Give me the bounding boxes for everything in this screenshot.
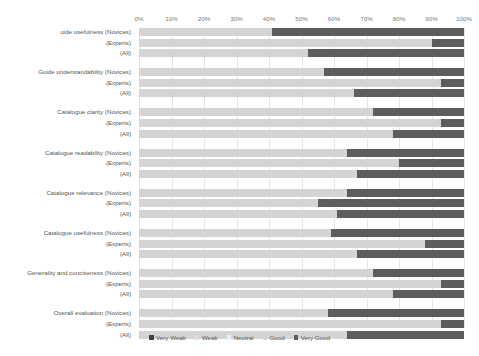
legend-item-good[interactable]: Good <box>263 334 285 341</box>
category-label: Catalogue usefulness (Novices) <box>0 229 134 237</box>
bar-row <box>139 149 464 157</box>
legend-label: Very Good <box>301 334 330 341</box>
legend-item-neutral[interactable]: Neutral <box>227 334 254 341</box>
category-label: Catalogue relevance (Novices) <box>0 189 134 197</box>
bar-row <box>139 49 464 57</box>
bar-segment-very-good <box>354 89 465 97</box>
bar-segment-very-good <box>393 130 465 138</box>
bar-group <box>139 189 464 218</box>
bar-row <box>139 89 464 97</box>
category-label: (All) <box>0 210 134 218</box>
bar-segment-good <box>139 320 441 328</box>
bar-segment-good <box>139 119 441 127</box>
bar-row <box>139 210 464 218</box>
bar-segment-very-good <box>337 210 464 218</box>
category-label: (All) <box>0 130 134 138</box>
bar-row <box>139 199 464 207</box>
legend-label: Very Weak <box>156 334 186 341</box>
bar-segment-good <box>139 68 324 76</box>
label-group: Guide understandability (Novices)(Expert… <box>0 68 134 97</box>
bar-row <box>139 280 464 288</box>
category-label: (Experts) <box>0 79 134 87</box>
category-label: (All) <box>0 250 134 258</box>
legend-swatch-icon <box>149 335 154 340</box>
bar-segment-good <box>139 79 441 87</box>
x-axis-tick-70: 70% <box>360 15 373 22</box>
x-axis-tick-90: 90% <box>425 15 438 22</box>
label-group: Catalogue clarity (Novices)(Experts)(All… <box>0 108 134 137</box>
bar-row <box>139 68 464 76</box>
x-axis-tick-100: 100% <box>456 15 472 22</box>
bar-row <box>139 170 464 178</box>
bar-segment-good <box>139 170 357 178</box>
bar-group <box>139 229 464 258</box>
x-axis-tick-0: 0% <box>134 15 143 22</box>
category-label: (Experts) <box>0 280 134 288</box>
bar-group <box>139 108 464 137</box>
bar-segment-good <box>139 39 432 47</box>
bar-row <box>139 189 464 197</box>
bar-segment-good <box>139 240 425 248</box>
category-label: Catalogue readability (Novices) <box>0 149 134 157</box>
category-label: Guide understandability (Novices) <box>0 68 134 76</box>
bar-segment-very-good <box>441 119 464 127</box>
bar-row <box>139 159 464 167</box>
bar-row <box>139 28 464 36</box>
category-label: (Experts) <box>0 119 134 127</box>
x-axis-tick-labels: 0%10%20%30%40%50%60%70%80%90%100% <box>139 15 464 27</box>
chart-legend: Very WeakWeakNeutralGoodVery Good <box>0 334 479 341</box>
bar-segment-very-good <box>347 189 464 197</box>
bar-segment-good <box>139 28 272 36</box>
bar-segment-good <box>139 250 357 258</box>
bar-segment-very-good <box>441 280 464 288</box>
bar-segment-good <box>139 269 373 277</box>
bar-row <box>139 229 464 237</box>
legend-item-very-good[interactable]: Very Good <box>294 334 330 341</box>
category-label: (Experts) <box>0 199 134 207</box>
bar-segment-good <box>139 210 337 218</box>
label-group: uide usefulness (Novices)(Experts)(All) <box>0 28 134 57</box>
bar-row <box>139 79 464 87</box>
bar-segment-very-good <box>425 240 464 248</box>
legend-swatch-icon <box>263 335 268 340</box>
bar-row <box>139 130 464 138</box>
category-label: (Experts) <box>0 159 134 167</box>
bar-group <box>139 269 464 298</box>
bar-segment-good <box>139 229 331 237</box>
bar-segment-very-good <box>357 250 464 258</box>
bar-segment-good <box>139 159 399 167</box>
label-group: Generality and conciseness (Novices)(Exp… <box>0 269 134 298</box>
category-axis-labels: uide usefulness (Novices)(Experts)(All)G… <box>0 28 134 328</box>
bar-segment-very-good <box>308 49 464 57</box>
bar-row <box>139 250 464 258</box>
bar-segment-very-good <box>318 199 464 207</box>
category-label: (All) <box>0 170 134 178</box>
bar-segment-very-good <box>441 320 464 328</box>
bar-row <box>139 240 464 248</box>
bar-group <box>139 28 464 57</box>
bar-group <box>139 68 464 97</box>
category-label: (All) <box>0 89 134 97</box>
bar-segment-very-good <box>324 68 464 76</box>
bar-segment-very-good <box>399 159 464 167</box>
category-label: uide usefulness (Novices) <box>0 28 134 36</box>
bar-segment-very-good <box>432 39 465 47</box>
legend-swatch-icon <box>294 335 299 340</box>
category-label: (All) <box>0 290 134 298</box>
bar-segment-good <box>139 108 373 116</box>
legend-item-weak[interactable]: Weak <box>195 334 218 341</box>
legend-item-very-weak[interactable]: Very Weak <box>149 334 186 341</box>
x-axis-tick-10: 10% <box>165 15 178 22</box>
category-label: (Experts) <box>0 39 134 47</box>
bar-row <box>139 290 464 298</box>
bar-row <box>139 108 464 116</box>
legend-swatch-icon <box>195 335 200 340</box>
bar-segment-good <box>139 309 328 317</box>
bar-segment-good <box>139 280 441 288</box>
x-axis-tick-80: 80% <box>393 15 406 22</box>
bar-segment-good <box>139 89 354 97</box>
bar-row <box>139 309 464 317</box>
bar-segment-very-good <box>373 269 464 277</box>
x-axis-tick-50: 50% <box>295 15 308 22</box>
bar-segment-very-good <box>331 229 464 237</box>
